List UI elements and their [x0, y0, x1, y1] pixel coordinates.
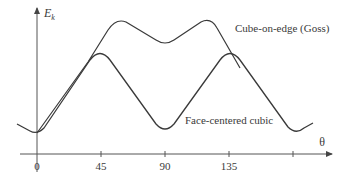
tick-label-45: 45: [96, 160, 108, 172]
x-axis-label: θ: [319, 135, 325, 149]
y-axis-label: Ek: [43, 6, 55, 22]
tick-label-90: 90: [160, 160, 172, 172]
y-axis-label-sub: k: [51, 13, 55, 22]
goss-series-label: Cube-on-edge (Goss): [235, 22, 330, 35]
anisotropy-energy-chart: 0 45 90 135 Ek θ Cube-on-edge (Goss) Fac…: [0, 0, 347, 178]
tick-label-0: 0: [34, 160, 40, 172]
tick-label-135: 135: [221, 160, 238, 172]
fcc-series-label: Face-centered cubic: [185, 114, 273, 126]
chart-svg: 0 45 90 135 Ek θ Cube-on-edge (Goss) Fac…: [0, 0, 347, 178]
